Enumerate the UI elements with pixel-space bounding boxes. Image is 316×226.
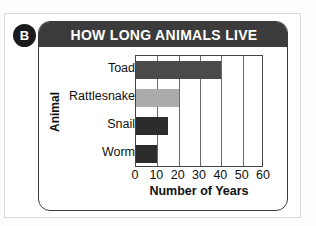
category-label: Toad — [63, 61, 135, 75]
chart-card: HOW LONG ANIMALS LIVE Animal ToadRattles… — [38, 21, 288, 211]
category-label: Rattlesnake — [63, 89, 135, 103]
chart-title: HOW LONG ANIMALS LIVE — [71, 27, 258, 43]
x-tick-label-list: 0102030405060 — [135, 168, 263, 184]
page-root: B HOW LONG ANIMALS LIVE Animal ToadRattl… — [0, 0, 316, 226]
item-badge-b: B — [13, 24, 36, 47]
category-label: Worm — [63, 145, 135, 159]
bar — [136, 61, 221, 79]
x-tick-label: 60 — [256, 168, 270, 182]
x-tick-label: 20 — [171, 168, 185, 182]
plot-area — [135, 55, 263, 167]
bar — [136, 145, 157, 163]
bar — [136, 117, 168, 135]
x-tick-label: 10 — [149, 168, 163, 182]
y-axis-title: Animal — [48, 72, 62, 152]
x-tick-label: 50 — [235, 168, 249, 182]
gridline — [243, 56, 244, 166]
chart-title-bar: HOW LONG ANIMALS LIVE — [39, 22, 288, 47]
x-axis-title: Number of Years — [135, 184, 263, 198]
category-label-list: ToadRattlesnakeSnailWorm — [63, 55, 135, 167]
chart-area: Animal ToadRattlesnakeSnailWorm 01020304… — [39, 47, 288, 211]
gridline — [221, 56, 222, 166]
x-tick-label: 0 — [132, 168, 139, 182]
category-label: Snail — [63, 117, 135, 131]
x-tick-label: 40 — [213, 168, 227, 182]
bar — [136, 89, 179, 107]
x-tick-label: 30 — [192, 168, 206, 182]
